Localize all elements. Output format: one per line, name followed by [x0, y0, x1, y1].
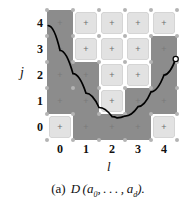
grid-node — [97, 34, 101, 38]
grid-node — [123, 86, 127, 90]
grid-cell-l0-j3: + — [47, 36, 73, 62]
grid-cell-l2-j2: + — [101, 64, 124, 87]
x-axis-label: l — [107, 160, 111, 173]
cell-plus-icon: + — [109, 123, 114, 132]
grid-cell-l3-j1: + — [125, 88, 151, 114]
grid-cell-l0-j0: + — [49, 116, 72, 139]
figure-caption: (a)D (a0, . . . , ad). — [0, 181, 196, 202]
grid-node — [175, 60, 179, 64]
x-tick-0: 0 — [52, 143, 68, 155]
grid-node — [123, 112, 127, 116]
grid-node — [149, 112, 153, 116]
grid-cell-l4-j1: + — [151, 88, 177, 114]
grid-node — [71, 112, 75, 116]
cell-plus-icon: + — [161, 45, 166, 54]
cell-plus-icon: + — [57, 97, 62, 106]
grid-node — [175, 86, 179, 90]
cell-plus-icon: + — [161, 122, 166, 131]
grid-node — [123, 34, 127, 38]
cell-plus-icon: + — [83, 18, 88, 27]
grid-node — [123, 138, 127, 142]
cell-plus-icon: + — [109, 18, 114, 27]
grid-cell-l4-j2: + — [151, 62, 177, 88]
y-tick-0: 0 — [29, 121, 43, 133]
x-tick-2: 2 — [104, 143, 120, 155]
cell-plus-icon: + — [57, 122, 62, 131]
cell-plus-icon: + — [109, 70, 114, 79]
y-tick-2: 2 — [29, 69, 43, 81]
y-tick-3: 3 — [29, 43, 43, 55]
grid-node — [97, 60, 101, 64]
cell-plus-icon: + — [135, 97, 140, 106]
grid-node — [149, 8, 153, 12]
cell-plus-icon: + — [83, 71, 88, 80]
grid-node — [149, 86, 153, 90]
grid-node — [71, 8, 75, 12]
cell-plus-icon: + — [161, 71, 166, 80]
grid-node — [175, 112, 179, 116]
cell-plus-icon: + — [135, 123, 140, 132]
grid-cell-l1-j2: + — [73, 62, 99, 88]
grid-cell-l0-j2: + — [47, 62, 73, 88]
grid-cell-l1-j4: + — [75, 12, 98, 35]
grid-node — [123, 8, 127, 12]
y-tick-4: 4 — [29, 17, 43, 29]
grid-cell-l4-j3: + — [151, 36, 177, 62]
cell-plus-icon: + — [135, 44, 140, 53]
cell-plus-icon: + — [161, 97, 166, 106]
grid-node — [175, 8, 179, 12]
caption-symbol: D — [66, 181, 80, 196]
y-tick-1: 1 — [29, 95, 43, 107]
grid-plot: +++++++++++++++++++++++++ — [47, 10, 177, 140]
grid-node — [45, 138, 49, 142]
grid-node — [97, 86, 101, 90]
grid-node — [175, 138, 179, 142]
grid-node — [45, 112, 49, 116]
grid-cell-l1-j3: + — [75, 38, 98, 61]
grid-cell-l4-j4: + — [153, 12, 176, 35]
grid-cell-l3-j4: + — [127, 12, 150, 35]
grid-node — [97, 112, 101, 116]
cell-plus-icon: + — [109, 44, 114, 53]
grid-node — [71, 60, 75, 64]
grid-node — [45, 34, 49, 38]
y-axis-label: j — [20, 66, 24, 80]
grid-cell-l1-j1: + — [73, 88, 99, 114]
grid-node — [45, 86, 49, 90]
x-axis-ticks: 01234 — [47, 143, 177, 159]
grid-cell-l2-j3: + — [101, 38, 124, 61]
cell-plus-icon: + — [135, 70, 140, 79]
grid-node — [97, 8, 101, 12]
cell-plus-icon: + — [161, 18, 166, 27]
grid-cell-l2-j4: + — [101, 12, 124, 35]
grid-cell-l4-j0: + — [153, 116, 176, 139]
cell-plus-icon: + — [57, 19, 62, 28]
cell-plus-icon: + — [83, 97, 88, 106]
x-tick-4: 4 — [156, 143, 172, 155]
grid-node — [149, 34, 153, 38]
grid-cell-l1-j0: + — [73, 114, 99, 140]
cell-plus-icon: + — [83, 123, 88, 132]
grid-cell-l3-j3: + — [127, 38, 150, 61]
cell-plus-icon: + — [57, 71, 62, 80]
grid-node — [149, 60, 153, 64]
grid-node — [71, 138, 75, 142]
cell-plus-icon: + — [135, 18, 140, 27]
cell-plus-icon: + — [109, 96, 114, 105]
grid-node — [45, 60, 49, 64]
grid-node — [149, 138, 153, 142]
caption-args: (a0, . . . , ad). — [80, 181, 145, 196]
grid-node — [123, 60, 127, 64]
grid-node — [71, 86, 75, 90]
grid-cell-l3-j0: + — [125, 114, 151, 140]
grid-cell-l3-j2: + — [127, 64, 150, 87]
figure-container: +++++++++++++++++++++++++ 43210 j 01234 … — [0, 0, 196, 205]
x-tick-3: 3 — [130, 143, 146, 155]
caption-tag: (a) — [51, 181, 65, 196]
grid-cell-l0-j1: + — [47, 88, 73, 114]
grid-cell-l2-j0: + — [99, 114, 125, 140]
grid-node — [45, 8, 49, 12]
y-axis-ticks: 43210 — [27, 10, 43, 140]
grid-node — [175, 34, 179, 38]
x-tick-1: 1 — [78, 143, 94, 155]
